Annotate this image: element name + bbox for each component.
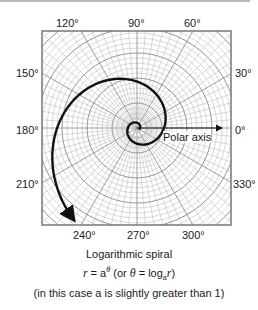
angle-label-240: 240°	[73, 229, 96, 241]
formula-eq2: = log	[136, 267, 163, 279]
angle-label-300: 300°	[182, 229, 205, 241]
formula-eq1: = a	[88, 267, 107, 279]
diagram-title: Logarithmic spiral	[0, 248, 258, 260]
angle-label-0: 0°	[235, 124, 246, 136]
angle-label-30: 30°	[235, 67, 252, 79]
angle-label-180: 180°	[16, 124, 39, 136]
formula: r = aθ (or θ = logar)	[0, 265, 258, 281]
angle-label-90: 90°	[128, 17, 145, 29]
angle-label-120: 120°	[56, 17, 79, 29]
polar-grid-diagram	[0, 0, 258, 310]
note: (in this case a is slightly greater than…	[0, 287, 258, 299]
formula-close: )	[171, 267, 175, 279]
angle-label-330: 330°	[233, 178, 256, 190]
angle-label-60: 60°	[184, 17, 201, 29]
formula-mid: (or	[110, 267, 130, 279]
polar-axis-label: Polar axis	[163, 131, 211, 143]
angle-label-270: 270°	[127, 229, 150, 241]
polar-grid	[0, 0, 258, 288]
angle-label-210: 210°	[16, 178, 39, 190]
angle-label-150: 150°	[16, 67, 39, 79]
